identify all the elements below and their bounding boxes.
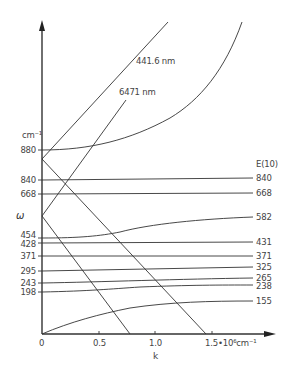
upper-polariton-curve — [42, 22, 242, 150]
annotation-647nm: 6471 nm — [119, 88, 156, 97]
y-axis-arrow-icon — [39, 20, 45, 31]
left-label-295: 295 — [6, 267, 36, 276]
lower-polariton-curve — [42, 301, 253, 334]
left-label-668: 668 — [6, 190, 36, 199]
level-840 — [42, 178, 253, 180]
x-tick-label-1.5: 1.5•10⁶cm⁻¹ — [205, 339, 256, 348]
right-header-e10: E(10) — [256, 160, 278, 169]
x-axis-title: k — [153, 352, 158, 361]
left-label-371: 371 — [6, 252, 36, 261]
level-198-238 — [42, 285, 253, 292]
right-label-840: 840 — [256, 174, 272, 183]
x-axis-arrow-icon — [264, 331, 276, 337]
left-label-840: 840 — [6, 176, 36, 185]
right-label-582: 582 — [256, 213, 272, 222]
y-unit-label: cm⁻¹ — [22, 131, 42, 140]
line-441-falling — [42, 159, 206, 334]
left-label-880: 880 — [6, 146, 36, 155]
annotation-441nm: 441.6 nm — [136, 57, 175, 66]
x-tick-label-1.0: 1.0 — [149, 339, 162, 348]
right-label-431: 431 — [256, 238, 272, 247]
line-647-rising — [42, 100, 126, 216]
right-label-238: 238 — [256, 282, 272, 291]
y-axis-title: ω — [16, 210, 24, 221]
x-tick-label-0.5: 0.5 — [93, 339, 106, 348]
level-428-431 — [42, 242, 253, 243]
dispersion-diagram: cm⁻¹ 880 840 668 454 428 371 295 243 198… — [0, 0, 300, 374]
left-label-198: 198 — [6, 288, 36, 297]
line-647-falling — [42, 216, 130, 334]
right-label-668: 668 — [256, 189, 272, 198]
right-label-371: 371 — [256, 252, 272, 261]
x-tick-label-0: 0 — [39, 339, 44, 348]
level-295-325 — [42, 267, 253, 271]
level-454-582 — [42, 217, 253, 238]
right-label-155: 155 — [256, 297, 272, 306]
right-label-325: 325 — [256, 263, 272, 272]
left-label-428: 428 — [6, 240, 36, 249]
level-243-265 — [42, 278, 253, 283]
